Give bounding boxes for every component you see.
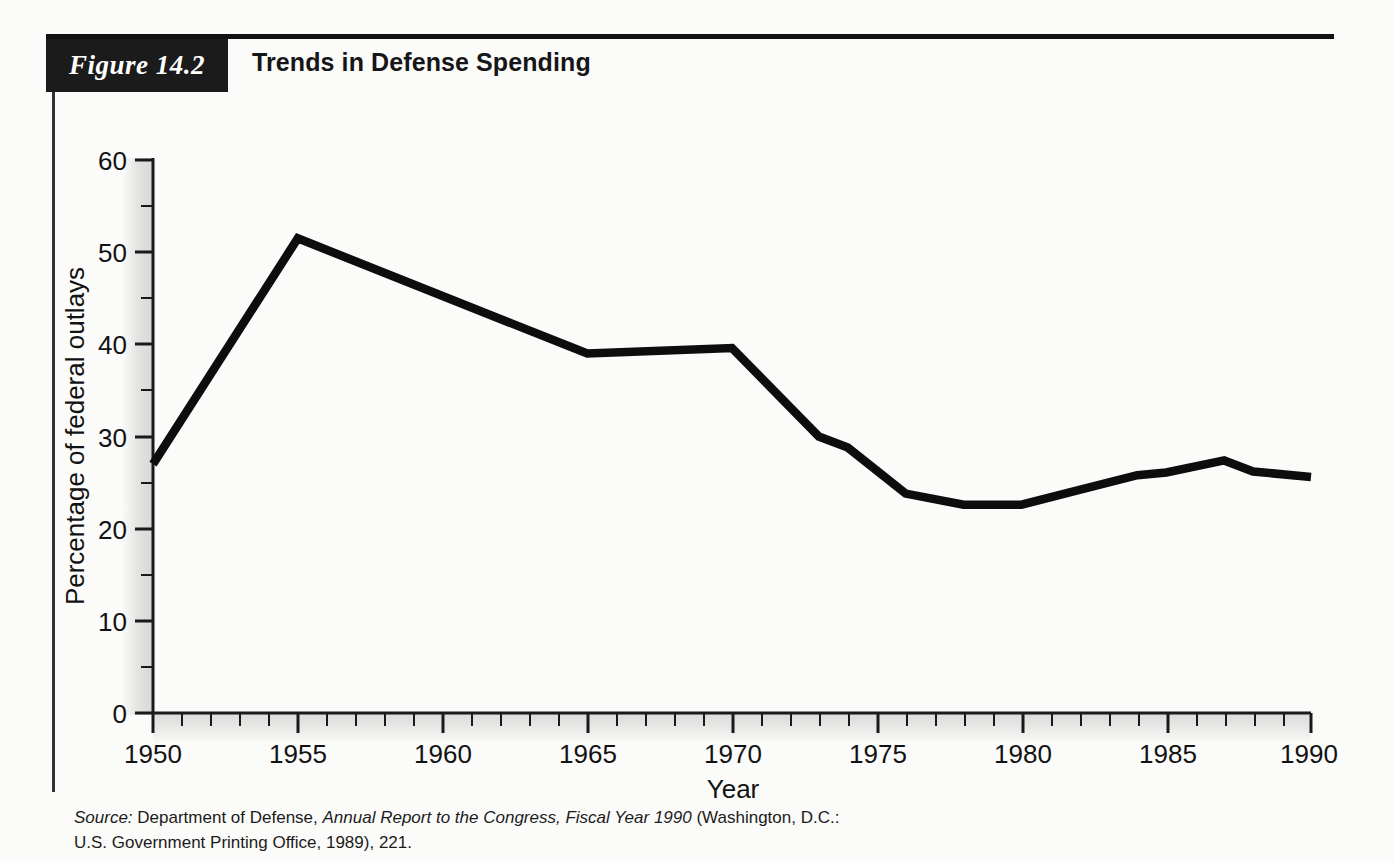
x-axis-title: Year xyxy=(707,774,760,804)
x-axis-tick-labels: 1950 1955 1960 1965 1970 1975 1980 1985 … xyxy=(124,739,1338,769)
source-publication-title: Annual Report to the Congress, Fiscal Ye… xyxy=(323,808,692,827)
y-tick-label: 30 xyxy=(98,423,127,453)
x-tick-label: 1980 xyxy=(994,739,1052,769)
source-note: Source: Department of Defense, Annual Re… xyxy=(74,806,1154,855)
y-tick-label: 20 xyxy=(98,515,127,545)
x-tick-label: 1955 xyxy=(269,739,327,769)
y-tick-label: 50 xyxy=(98,238,127,268)
source-pre-title: Department of Defense, xyxy=(133,808,323,827)
source-post-title: (Washington, D.C.: xyxy=(692,808,840,827)
x-tick-label: 1985 xyxy=(1139,739,1197,769)
chart-plot-area: 60 50 40 30 20 10 0 Percentage of federa… xyxy=(0,0,1394,863)
figure-page: Figure 14.2 Trends in Defense Spending xyxy=(0,0,1394,863)
y-axis-title: Percentage of federal outlays xyxy=(60,267,90,605)
line-chart-svg: 60 50 40 30 20 10 0 Percentage of federa… xyxy=(0,0,1394,863)
source-label: Source: xyxy=(74,808,133,827)
y-tick-label: 10 xyxy=(98,607,127,637)
x-tick-label: 1975 xyxy=(849,739,907,769)
y-tick-label: 40 xyxy=(98,330,127,360)
x-tick-label: 1950 xyxy=(124,739,182,769)
source-line-two: U.S. Government Printing Office, 1989), … xyxy=(74,833,412,852)
x-tick-label: 1970 xyxy=(704,739,762,769)
y-tick-label: 60 xyxy=(98,146,127,176)
x-tick-label: 1990 xyxy=(1280,739,1338,769)
x-tick-label: 1965 xyxy=(559,739,617,769)
x-tick-label: 1960 xyxy=(414,739,472,769)
y-tick-label: 0 xyxy=(113,699,127,729)
data-series-line xyxy=(153,238,1311,504)
